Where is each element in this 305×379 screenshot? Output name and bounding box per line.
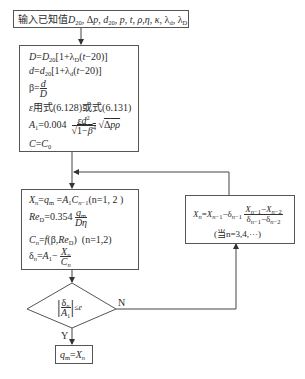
update-condition: (当n=3,4,···) — [214, 229, 261, 240]
input-text: 输入已知值D20, Δp, d20, p, t, ρ,η, κ, λd, λD — [18, 14, 187, 25]
init-line-D: D=D20[1+λD(t−20)] — [29, 51, 108, 62]
init-line-eps: ε用式(6.128)或式(6.131) — [29, 102, 131, 113]
decision-condition: |δnA1|≤e — [57, 298, 82, 317]
init-line-beta: β=dD — [29, 79, 47, 98]
re-coef: =0.354 — [44, 211, 72, 222]
iter-box: Xn=qm =A1Cn−1(n=1, 2 ) ReD=0.354 qmDη Cn… — [21, 189, 139, 270]
input-box: 输入已知值D20, Δp, d20, p, t, ρ,η, κ, λd, λD — [13, 10, 189, 28]
result-text: qm=Xn — [60, 349, 85, 360]
update-box: Xn=Xn−1−δn−1 Xn−1−Xn−2δn−1−δn−2 (当n=3,4,… — [185, 195, 295, 244]
result-box: qm=Xn — [55, 345, 93, 364]
iter-line-C: Cn=f(β,ReD) (n=1,2) — [29, 234, 112, 245]
no-label: N — [118, 297, 125, 308]
input-prefix: 输入已知值 — [18, 14, 68, 25]
iter-line-Re: ReD=0.354 qmDη — [29, 208, 87, 227]
init-line-C: C=C0 — [29, 138, 51, 149]
le-epsilon: ≤e — [74, 303, 82, 312]
iter-line-X: Xn=qm =A1Cn−1(n=1, 2 ) — [29, 194, 123, 205]
iter-line-delta: δn=A1− XnCn — [29, 247, 71, 266]
n-range-2: (n=1,2) — [82, 234, 112, 245]
update-formula: Xn=Xn−1−δn−1 Xn−1−Xn−2δn−1−δn−2 — [193, 205, 283, 224]
yes-label: Y — [61, 330, 68, 341]
init-line-A1: A1=0.004 εd2√1−β4 √Δpρ — [29, 116, 120, 135]
init-line-d: d=d20[1+λd(t−20)] — [29, 65, 102, 76]
eps-rule: 用式(6.128)或式(6.131) — [33, 102, 131, 113]
a1-coef: =0.004 — [38, 119, 66, 130]
n-range-1: (n=1, 2 ) — [88, 194, 123, 205]
init-box: D=D20[1+λD(t−20)] d=d20[1+λd(t−20)] β=dD… — [19, 45, 139, 152]
